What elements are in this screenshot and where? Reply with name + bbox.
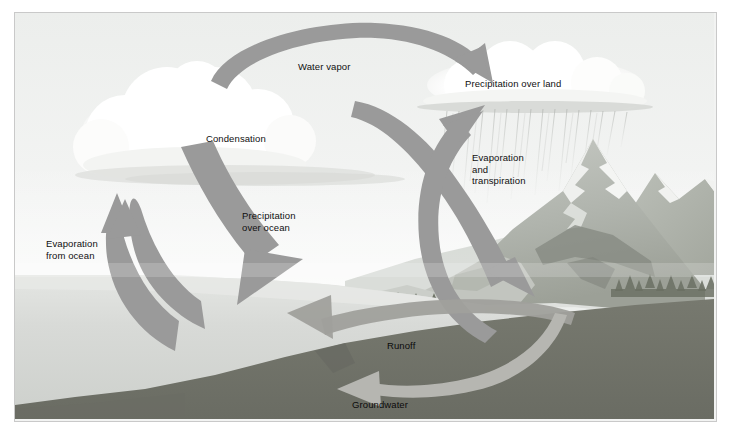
- label-groundwater: Groundwater: [352, 399, 408, 411]
- water-cycle-figure: Water vapor Condensation Precipitation o…: [0, 0, 729, 432]
- label-evaporation-and-transpiration: Evaporation and transpiration: [472, 152, 526, 187]
- label-precipitation-over-ocean: Precipitation over ocean: [242, 210, 296, 233]
- label-precipitation-over-land: Precipitation over land: [465, 78, 561, 90]
- water-cycle-scene: [15, 13, 714, 419]
- land-cloud-base-shadow: [417, 101, 653, 113]
- label-water-vapor: Water vapor: [298, 61, 351, 73]
- label-condensation: Condensation: [206, 133, 266, 145]
- diagram-frame: Water vapor Condensation Precipitation o…: [14, 12, 717, 422]
- label-runoff: Runoff: [387, 340, 415, 352]
- label-evaporation-from-ocean: Evaporation from ocean: [46, 238, 98, 261]
